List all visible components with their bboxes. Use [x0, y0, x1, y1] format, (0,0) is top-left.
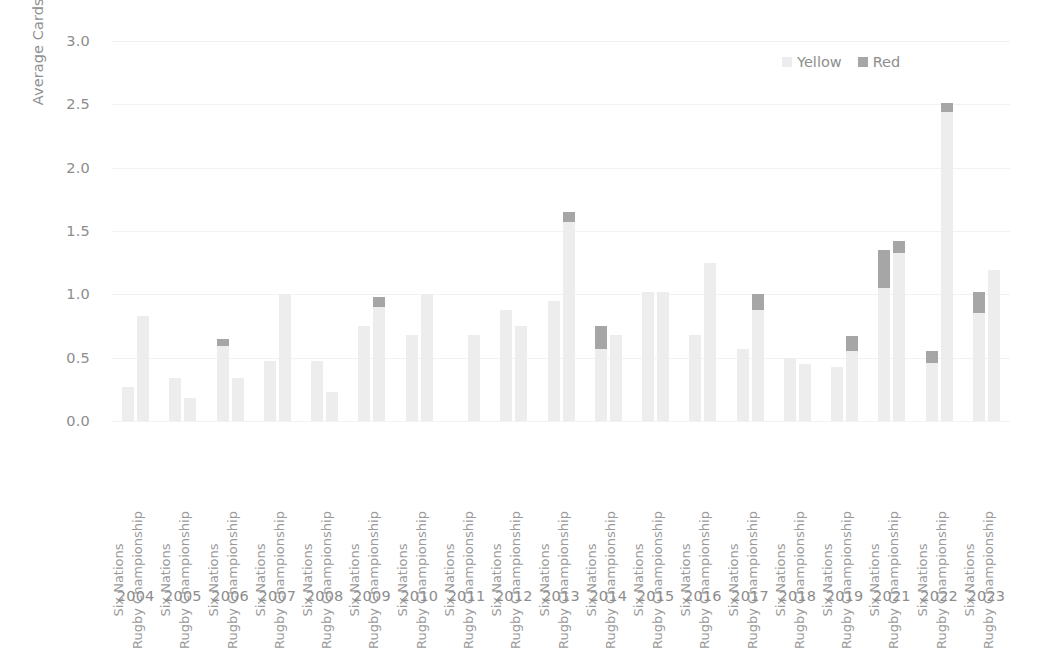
bar-stack[interactable]: [122, 387, 134, 421]
bar-stack[interactable]: [421, 294, 433, 421]
bar-stack[interactable]: [831, 367, 843, 421]
bar-stack[interactable]: [217, 339, 229, 421]
bar-segment-yellow[interactable]: [784, 358, 796, 421]
bar-stack[interactable]: [988, 270, 1000, 421]
bar-stack[interactable]: [973, 292, 985, 421]
x-axis-year-label: 2010: [396, 588, 443, 616]
bar-segment-yellow[interactable]: [988, 270, 1000, 421]
bar-stack[interactable]: [232, 378, 244, 421]
bar-segment-yellow[interactable]: [878, 288, 890, 421]
bar-segment-yellow[interactable]: [515, 326, 527, 421]
bar-segment-red[interactable]: [973, 292, 985, 314]
x-category-label-text: Rugby Championship: [697, 511, 712, 649]
bar-segment-yellow[interactable]: [468, 335, 480, 421]
bar-stack[interactable]: [610, 335, 622, 421]
x-axis-year-label: 2018: [774, 588, 821, 616]
bar-segment-yellow[interactable]: [358, 326, 370, 421]
bar-segment-yellow[interactable]: [264, 361, 276, 421]
bar-segment-yellow[interactable]: [232, 378, 244, 421]
bar-segment-yellow[interactable]: [973, 313, 985, 421]
bar-segment-yellow[interactable]: [595, 349, 607, 421]
bar-segment-red[interactable]: [217, 339, 229, 347]
bar-segment-yellow[interactable]: [326, 392, 338, 421]
x-axis-year-label: 2014: [585, 588, 632, 616]
bar-stack[interactable]: [406, 335, 418, 421]
bar-stack[interactable]: [311, 361, 323, 421]
bar-stack[interactable]: [358, 326, 370, 421]
bar-segment-yellow[interactable]: [926, 363, 938, 421]
x-category-group: Six NationsRugby Championship: [159, 424, 206, 584]
bar-stack[interactable]: [878, 250, 890, 421]
bar-segment-yellow[interactable]: [279, 294, 291, 421]
bar-stack[interactable]: [893, 241, 905, 421]
bar-stack[interactable]: [326, 392, 338, 421]
bar-stack[interactable]: [563, 212, 575, 421]
bar-stack[interactable]: [169, 378, 181, 421]
bar-segment-yellow[interactable]: [610, 335, 622, 421]
bar-segment-yellow[interactable]: [657, 292, 669, 421]
bar-segment-yellow[interactable]: [563, 222, 575, 421]
legend-entry[interactable]: Yellow: [782, 54, 842, 70]
bar-stack[interactable]: [264, 361, 276, 421]
x-category-group: Six NationsRugby Championship: [585, 424, 632, 584]
bar-segment-red[interactable]: [373, 297, 385, 307]
bar-segment-yellow[interactable]: [406, 335, 418, 421]
bar-segment-red[interactable]: [926, 351, 938, 362]
bar-stack[interactable]: [941, 103, 953, 421]
bar-segment-yellow[interactable]: [500, 310, 512, 421]
x-category-label: Rugby Championship: [232, 424, 248, 584]
bar-segment-yellow[interactable]: [737, 349, 749, 421]
bar-segment-yellow[interactable]: [752, 310, 764, 421]
bar-segment-red[interactable]: [941, 103, 953, 112]
x-category-label: Rugby Championship: [657, 424, 673, 584]
legend-entry[interactable]: Red: [858, 54, 901, 70]
bar-stack[interactable]: [595, 326, 607, 421]
bar-segment-yellow[interactable]: [799, 364, 811, 421]
bar-stack[interactable]: [784, 358, 796, 421]
bar-stack[interactable]: [373, 297, 385, 421]
bar-segment-yellow[interactable]: [831, 367, 843, 421]
bar-segment-yellow[interactable]: [122, 387, 134, 421]
bar-stack[interactable]: [689, 335, 701, 421]
bar-segment-red[interactable]: [752, 294, 764, 309]
bar-group: [774, 41, 821, 421]
bar-stack[interactable]: [799, 364, 811, 421]
bar-segment-yellow[interactable]: [373, 307, 385, 421]
bar-stack[interactable]: [500, 310, 512, 421]
bar-segment-red[interactable]: [878, 250, 890, 288]
bar-segment-yellow[interactable]: [689, 335, 701, 421]
bar-segment-red[interactable]: [595, 326, 607, 349]
bar-group: [537, 41, 584, 421]
bar-stack[interactable]: [737, 349, 749, 421]
bar-stack[interactable]: [642, 292, 654, 421]
bar-stack[interactable]: [926, 351, 938, 421]
bar-stack[interactable]: [752, 294, 764, 421]
bar-segment-red[interactable]: [563, 212, 575, 222]
bar-stack[interactable]: [137, 316, 149, 421]
bar-segment-yellow[interactable]: [941, 112, 953, 421]
bar-segment-yellow[interactable]: [137, 316, 149, 421]
bar-stack[interactable]: [657, 292, 669, 421]
bar-segment-yellow[interactable]: [704, 263, 716, 421]
bar-segment-yellow[interactable]: [893, 253, 905, 421]
bar-segment-yellow[interactable]: [846, 351, 858, 421]
x-category-group: Six NationsRugby Championship: [254, 424, 301, 584]
bar-stack[interactable]: [846, 336, 858, 421]
bar-segment-yellow[interactable]: [169, 378, 181, 421]
bar-stack[interactable]: [184, 398, 196, 421]
bar-segment-red[interactable]: [846, 336, 858, 351]
legend-label: Red: [873, 54, 901, 70]
bar-segment-yellow[interactable]: [642, 292, 654, 421]
bar-segment-yellow[interactable]: [548, 301, 560, 421]
bar-stack[interactable]: [548, 301, 560, 421]
x-category-label-text: Rugby Championship: [414, 511, 429, 649]
bar-stack[interactable]: [515, 326, 527, 421]
bar-segment-yellow[interactable]: [184, 398, 196, 421]
bar-segment-yellow[interactable]: [217, 346, 229, 421]
bar-stack[interactable]: [704, 263, 716, 421]
bar-stack[interactable]: [468, 335, 480, 421]
bar-segment-red[interactable]: [893, 241, 905, 252]
bar-segment-yellow[interactable]: [311, 361, 323, 421]
bar-segment-yellow[interactable]: [421, 294, 433, 421]
bar-stack[interactable]: [279, 294, 291, 421]
